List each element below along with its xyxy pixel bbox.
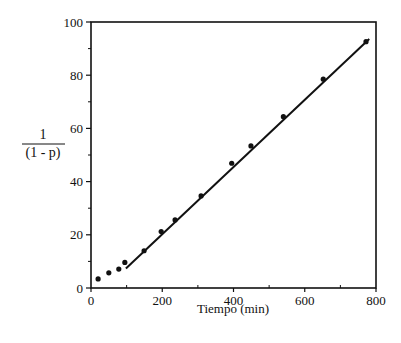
data-point xyxy=(106,270,111,275)
data-point xyxy=(96,276,101,281)
data-point xyxy=(248,143,253,148)
y-axis-ticks: 020406080100 xyxy=(64,15,92,296)
x-tick-label: 0 xyxy=(88,293,95,308)
data-point xyxy=(229,161,234,166)
y-tick-label: 20 xyxy=(70,227,83,242)
x-tick-label: 600 xyxy=(295,293,315,308)
plot-frame xyxy=(91,22,376,288)
scatter-plot: 020406080100 0200400600800 Tiempo (min) … xyxy=(0,0,401,343)
regression-line xyxy=(126,39,369,269)
data-point xyxy=(321,77,326,82)
y-tick-label: 40 xyxy=(70,174,83,189)
data-point xyxy=(116,267,121,272)
data-point xyxy=(363,39,368,44)
y-axis-title-numerator: 1 xyxy=(40,127,47,142)
data-point xyxy=(198,193,203,198)
y-tick-label: 100 xyxy=(64,15,84,30)
x-tick-label: 800 xyxy=(366,293,386,308)
data-point xyxy=(159,229,164,234)
y-axis-title: 1 (1 - p) xyxy=(22,127,65,161)
y-tick-label: 60 xyxy=(70,121,83,136)
fit-line xyxy=(126,39,369,269)
data-point xyxy=(141,248,146,253)
y-tick-label: 0 xyxy=(77,281,84,296)
plot-border xyxy=(91,22,376,288)
x-axis-title: Tiempo (min) xyxy=(197,301,269,316)
y-axis-title-denominator: (1 - p) xyxy=(26,145,61,161)
x-tick-label: 200 xyxy=(153,293,173,308)
data-point xyxy=(281,114,286,119)
data-markers xyxy=(96,39,369,281)
chart-container: 020406080100 0200400600800 Tiempo (min) … xyxy=(0,0,401,343)
data-point xyxy=(122,260,127,265)
y-tick-label: 80 xyxy=(70,68,83,83)
data-point xyxy=(172,217,177,222)
